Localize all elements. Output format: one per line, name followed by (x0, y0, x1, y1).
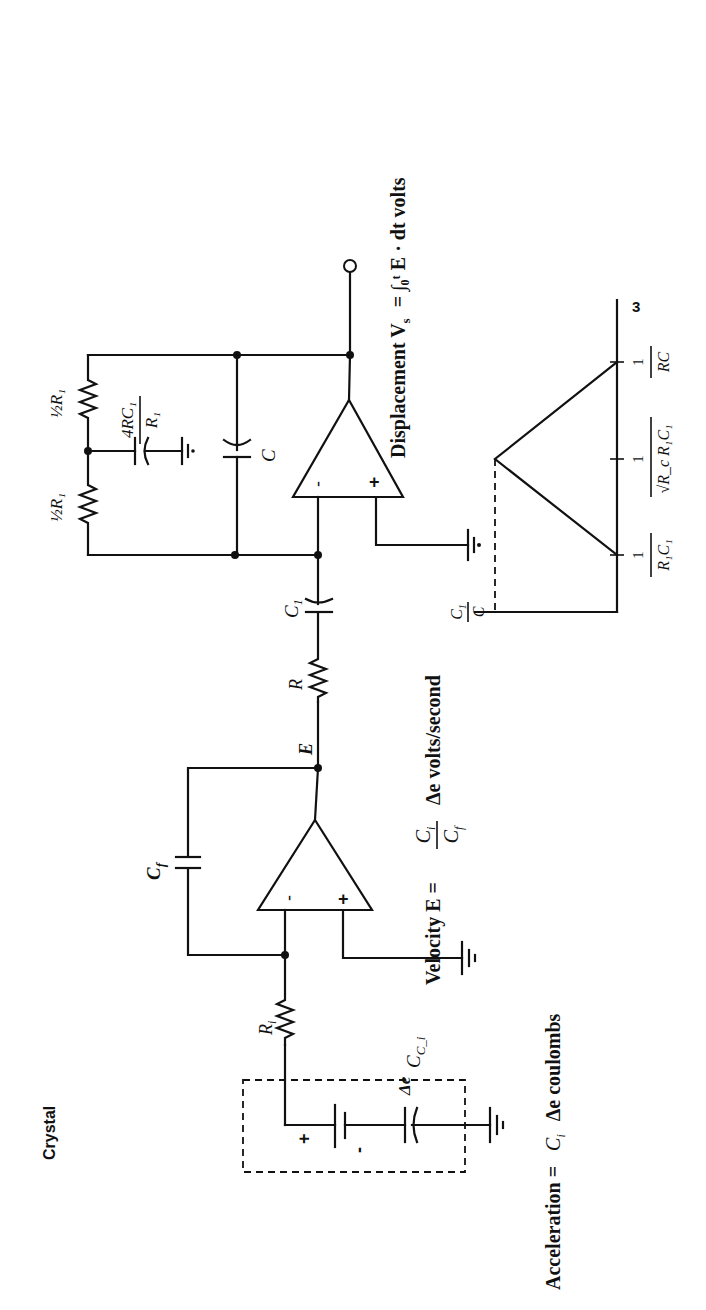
svg-text:+: + (294, 1133, 314, 1144)
capacitor-cf-icon (176, 857, 200, 868)
page-number: 3 (632, 298, 640, 315)
svg-text:Velocity E =: Velocity E = (422, 882, 445, 985)
svg-text:+: + (369, 472, 380, 492)
ground-icon (462, 942, 475, 974)
svg-text:C1: C1 (448, 604, 468, 620)
svg-text:1: 1 (630, 455, 646, 463)
resistor-ri (277, 955, 293, 1045)
resistor-r (310, 612, 326, 702)
ci-label: CC_i (403, 1036, 428, 1068)
svg-text:Ci: Ci (412, 827, 438, 844)
velocity-equation: Velocity E = Ci Cf Δe volts/second (412, 675, 466, 985)
frequency-response-chart: C1 C 1 R₁C₁ 1 √R_c R₁C₁ 1 RC 3 (448, 298, 672, 622)
stage2-integrator: R C1 - + (47, 260, 481, 768)
svg-text:-: - (349, 1147, 369, 1153)
tee-cap-num: 4RC₁ (118, 402, 137, 438)
tee-cap-den: R₁ (142, 412, 161, 429)
tick-label-3: 1 RC (630, 346, 672, 378)
svg-text:R₁C₁: R₁C₁ (655, 539, 672, 572)
cf-label: Cf (143, 861, 168, 880)
opamp-1 (258, 820, 372, 910)
svg-text:-: - (308, 481, 328, 487)
acceleration-equation: Acceleration = Ci Δe coulombs (542, 1013, 569, 1290)
displacement-equation: Displacement Vs = ∫₀ᵗ E · dt volts (387, 177, 414, 458)
svg-text:Δe volts/second: Δe volts/second (422, 675, 444, 805)
response-curve (495, 362, 617, 555)
svg-text:-: - (279, 895, 299, 901)
output-terminal (344, 260, 356, 272)
svg-text:1: 1 (630, 551, 646, 559)
c1-label: C1 (281, 599, 305, 618)
svg-text:C: C (470, 606, 487, 617)
crystal-label: Crystal (41, 1106, 58, 1160)
svg-text:+: + (338, 889, 349, 909)
svg-text:RC: RC (655, 351, 672, 373)
svg-text:1: 1 (630, 358, 646, 366)
schematic-figure: Crystal + - Δe CC_i (0, 0, 706, 1310)
e-node-label: E (296, 743, 316, 756)
ground-icon (468, 530, 481, 560)
svg-text:√R_c R₁C₁: √R_c R₁C₁ (655, 424, 672, 493)
r-label: R (286, 679, 306, 691)
half-r1-top-label: ½R₁ (47, 389, 66, 418)
ground-icon (182, 438, 195, 464)
half-r1-bottom-label: ½R₁ (47, 493, 66, 522)
ground-icon (490, 1108, 503, 1142)
c-label: C (258, 449, 279, 462)
battery-icon (335, 1105, 345, 1147)
tick-label-1: 1 R₁C₁ (630, 533, 672, 577)
tick-label-2: 1 √R_c R₁C₁ (630, 417, 672, 497)
svg-text:Displacement Vs = ∫₀ᵗ E: Displacement Vs = ∫₀ᵗ E · dt volts (387, 177, 414, 458)
resistor-half-r1-bottom (80, 451, 96, 555)
ri-label: Ri (256, 1021, 279, 1036)
svg-text:Acceleration = Ci: Acceleration = Ci Δe coulombs (542, 1013, 569, 1290)
svg-text:Cf: Cf (440, 825, 466, 843)
resistor-half-r1-top (80, 355, 96, 451)
delta-e-label: Δe (395, 1076, 414, 1096)
